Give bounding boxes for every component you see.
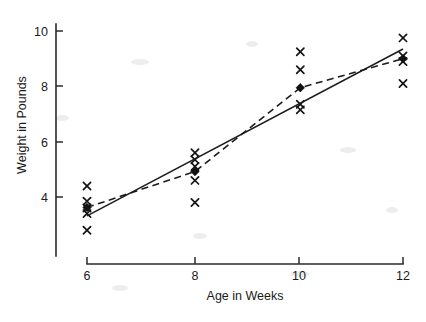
x-tick-label-12: 12 — [396, 269, 410, 283]
y-axis: 10 8 6 4 Weight in Pounds — [15, 24, 63, 256]
plot-layer — [83, 34, 407, 233]
x-tick-label-6: 6 — [84, 269, 91, 283]
x-tick-label-8: 8 — [192, 269, 199, 283]
chart-canvas: 10 8 6 4 Weight in Pounds 6 8 10 12 Age … — [0, 0, 426, 322]
data-point-x — [399, 34, 406, 41]
y-tick-label-10: 10 — [34, 25, 48, 39]
x-axis-title: Age in Weeks — [207, 289, 284, 303]
data-point-x — [191, 199, 198, 206]
y-tick-label-8: 8 — [41, 80, 48, 94]
scatter-chart: 10 8 6 4 Weight in Pounds 6 8 10 12 Age … — [0, 0, 426, 322]
y-axis-title: Weight in Pounds — [15, 76, 29, 174]
y-tick-label-4: 4 — [41, 191, 48, 205]
y-tick-label-6: 6 — [41, 136, 48, 150]
data-point-x — [297, 106, 304, 113]
data-point-x — [297, 66, 304, 73]
data-point-x — [297, 48, 304, 55]
data-point-x — [399, 80, 406, 87]
x-axis: 6 8 10 12 Age in Weeks — [84, 257, 410, 303]
series-observations — [83, 34, 406, 233]
data-point-x — [191, 149, 198, 156]
line-path — [87, 49, 403, 216]
data-point-x — [191, 177, 198, 184]
series-regression-line — [87, 49, 403, 216]
data-point-x — [83, 227, 90, 234]
data-point-x — [83, 182, 90, 189]
x-tick-label-10: 10 — [292, 269, 306, 283]
data-point-mean — [399, 54, 407, 62]
